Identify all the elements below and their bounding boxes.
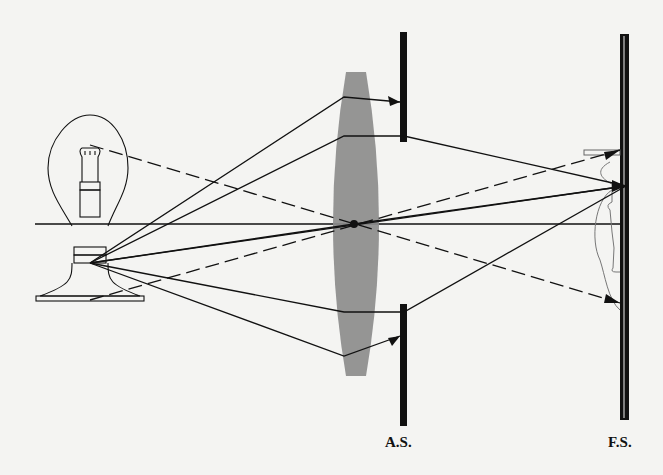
lens-center — [350, 220, 358, 228]
aperture-stop-upper — [400, 32, 407, 142]
optical-diagram — [0, 0, 663, 475]
aperture-stop-lower — [400, 304, 407, 426]
arrow-icon — [388, 96, 400, 106]
field-stop-label: F.S. — [608, 434, 632, 451]
bulb-image-icon — [584, 150, 620, 310]
arrow-icon — [604, 294, 620, 303]
light-bulb-icon — [36, 115, 144, 301]
aperture-stop-label: A.S. — [385, 434, 412, 451]
arrow-icon — [388, 336, 400, 346]
